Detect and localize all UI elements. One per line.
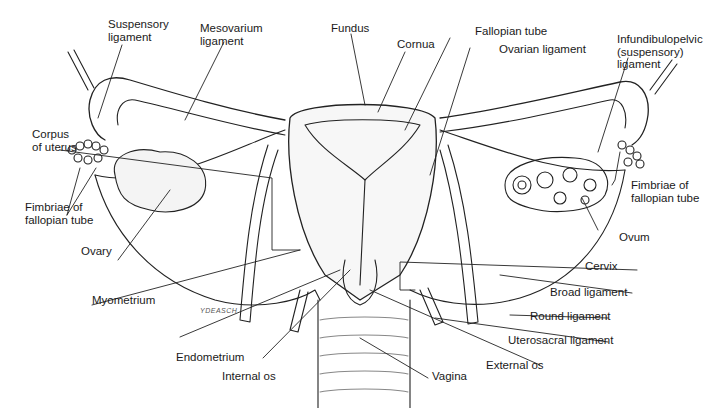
label-ovum: Ovum bbox=[619, 231, 650, 244]
label-mesovarium-ligament: Mesovarium ligament bbox=[200, 22, 263, 47]
fimbriae-right-shape bbox=[618, 141, 644, 168]
label-infundibulopelvic-ligament: Infundibulopelvic (suspensory) ligament bbox=[617, 33, 703, 71]
label-fimbriae-left: Fimbriae of fallopian tube bbox=[25, 201, 93, 226]
label-cornua: Cornua bbox=[397, 38, 435, 51]
label-broad-ligament: Broad ligament bbox=[550, 286, 627, 299]
label-ovarian-ligament: Ovarian ligament bbox=[499, 43, 586, 56]
label-fimbriae-right: Fimbriae of fallopian tube bbox=[631, 179, 699, 204]
label-myometrium: Myometrium bbox=[92, 294, 155, 307]
label-suspensory-ligament: Suspensory ligament bbox=[108, 18, 169, 43]
label-vagina: Vagina bbox=[432, 370, 467, 383]
label-fundus: Fundus bbox=[331, 22, 369, 35]
label-corpus-of-uterus: Corpus of uterus bbox=[32, 128, 77, 153]
label-endometrium: Endometrium bbox=[176, 351, 244, 364]
artist-signature: YDEASCH bbox=[200, 307, 237, 314]
label-uterosacral-ligament: Uterosacral ligament bbox=[508, 334, 613, 347]
label-external-os: External os bbox=[486, 359, 544, 372]
label-cervix: Cervix bbox=[585, 260, 618, 273]
label-round-ligament: Round ligament bbox=[530, 310, 611, 323]
label-fallopian-tube: Fallopian tube bbox=[475, 25, 547, 38]
label-ovary: Ovary bbox=[81, 245, 112, 258]
label-internal-os: Internal os bbox=[222, 370, 276, 383]
